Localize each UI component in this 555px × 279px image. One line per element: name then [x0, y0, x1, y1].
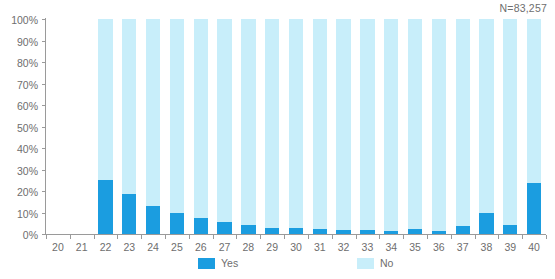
x-axis-tick-mark	[94, 235, 95, 239]
bar-segment-yes[interactable]	[265, 228, 279, 234]
bar-segment-no[interactable]	[146, 19, 160, 234]
bar-column-37[interactable]	[456, 19, 470, 234]
bar-column-21[interactable]	[75, 19, 89, 234]
chart-container: N=83,257 100%90%80%70%60%50%40%30%20%10%…	[0, 0, 555, 279]
bar-segment-yes[interactable]	[313, 229, 327, 234]
bar-segment-yes[interactable]	[217, 222, 231, 234]
bar-column-34[interactable]	[384, 19, 398, 234]
x-axis-tick-mark	[475, 235, 476, 239]
bar-column-26[interactable]	[194, 19, 208, 234]
bar-column-22[interactable]	[98, 19, 112, 234]
bar-column-38[interactable]	[479, 19, 493, 234]
bar-segment-yes[interactable]	[146, 206, 160, 234]
y-axis-tick-label: 40%	[17, 143, 38, 155]
x-axis-tick-mark	[308, 235, 309, 239]
x-axis-label-24: 24	[141, 241, 165, 253]
bar-segment-yes[interactable]	[503, 225, 517, 234]
bar-column-36[interactable]	[432, 19, 446, 234]
legend-swatch-yes-icon	[198, 258, 215, 269]
bar-segment-no[interactable]	[336, 19, 350, 234]
bar-column-35[interactable]	[408, 19, 422, 234]
y-axis-tick-label: 60%	[17, 100, 38, 112]
bar-column-33[interactable]	[360, 19, 374, 234]
x-axis-tick-mark	[546, 235, 547, 239]
bar-segment-no[interactable]	[384, 19, 398, 234]
bar-column-31[interactable]	[313, 19, 327, 234]
x-axis-tick-mark	[284, 235, 285, 239]
bar-segment-no[interactable]	[479, 19, 493, 234]
bar-segment-no[interactable]	[360, 19, 374, 234]
x-axis-label-28: 28	[236, 241, 260, 253]
x-axis-label-39: 39	[498, 241, 522, 253]
y-axis-tick-label: 80%	[17, 57, 38, 69]
legend-item-yes[interactable]: Yes	[198, 258, 238, 269]
bar-segment-no[interactable]	[265, 19, 279, 234]
sample-size-annotation: N=83,257	[500, 2, 547, 14]
bar-segment-yes[interactable]	[432, 231, 446, 234]
x-axis-label-25: 25	[165, 241, 189, 253]
x-axis-label-31: 31	[308, 241, 332, 253]
bar-segment-yes[interactable]	[336, 230, 350, 234]
bar-column-39[interactable]	[503, 19, 517, 234]
x-axis-label-27: 27	[213, 241, 237, 253]
bar-segment-yes[interactable]	[527, 183, 541, 234]
bar-segment-yes[interactable]	[456, 226, 470, 234]
legend-item-no[interactable]: No	[357, 258, 393, 269]
x-axis-tick-mark	[498, 235, 499, 239]
bar-segment-yes[interactable]	[479, 213, 493, 235]
bar-segment-yes[interactable]	[408, 229, 422, 234]
plot-area	[46, 19, 546, 234]
bar-column-24[interactable]	[146, 19, 160, 234]
bar-segment-no[interactable]	[289, 19, 303, 234]
x-axis-label-20: 20	[46, 241, 70, 253]
bar-segment-yes[interactable]	[384, 231, 398, 234]
bar-segment-no[interactable]	[432, 19, 446, 234]
x-axis-tick-mark	[451, 235, 452, 239]
x-axis-tick-mark	[213, 235, 214, 239]
x-axis-tick-mark	[46, 235, 47, 239]
x-axis-tick-mark	[165, 235, 166, 239]
bar-segment-yes[interactable]	[289, 228, 303, 234]
y-axis-tick-label: 0%	[23, 229, 38, 241]
bar-segment-yes[interactable]	[194, 218, 208, 234]
x-axis-tick-mark	[379, 235, 380, 239]
bar-segment-no[interactable]	[313, 19, 327, 234]
bar-segment-no[interactable]	[503, 19, 517, 234]
bar-column-30[interactable]	[289, 19, 303, 234]
bar-column-27[interactable]	[217, 19, 231, 234]
x-axis-label-35: 35	[403, 241, 427, 253]
bar-segment-no[interactable]	[217, 19, 231, 234]
bar-segment-no[interactable]	[241, 19, 255, 234]
bar-segment-yes[interactable]	[241, 225, 255, 234]
x-axis-label-40: 40	[522, 241, 546, 253]
bar-segment-yes[interactable]	[122, 194, 136, 234]
x-axis-tick-mark	[332, 235, 333, 239]
legend-label-no: No	[380, 258, 393, 269]
chart-legend: Yes No	[0, 258, 555, 276]
bar-column-25[interactable]	[170, 19, 184, 234]
x-axis-tick-mark	[356, 235, 357, 239]
x-axis-tick-mark	[141, 235, 142, 239]
bar-segment-no[interactable]	[194, 19, 208, 234]
bar-column-32[interactable]	[336, 19, 350, 234]
bar-segment-yes[interactable]	[98, 180, 112, 234]
bar-segment-yes[interactable]	[170, 213, 184, 235]
bar-column-20[interactable]	[51, 19, 65, 234]
bar-column-28[interactable]	[241, 19, 255, 234]
legend-swatch-no-icon	[357, 258, 374, 269]
bar-column-29[interactable]	[265, 19, 279, 234]
x-axis-label-34: 34	[379, 241, 403, 253]
x-axis-label-22: 22	[94, 241, 118, 253]
x-axis-tick-mark	[236, 235, 237, 239]
bar-column-23[interactable]	[122, 19, 136, 234]
x-axis-label-23: 23	[117, 241, 141, 253]
x-axis-tick-mark	[522, 235, 523, 239]
bar-column-40[interactable]	[527, 19, 541, 234]
bar-segment-yes[interactable]	[360, 230, 374, 234]
y-axis-tick-label: 30%	[17, 165, 38, 177]
legend-label-yes: Yes	[221, 258, 238, 269]
bar-segment-no[interactable]	[408, 19, 422, 234]
y-axis-tick-label: 50%	[17, 122, 38, 134]
bar-segment-no[interactable]	[170, 19, 184, 234]
bar-segment-no[interactable]	[456, 19, 470, 234]
